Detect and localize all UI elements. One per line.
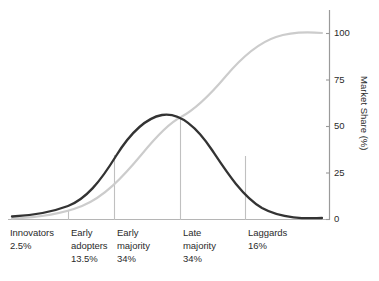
y-tick-label-25: 25	[334, 168, 345, 178]
adoption-lifecycle-chart: 100 75 50 25 0 Market Share (%) Innovato…	[0, 0, 379, 281]
y-axis-title: Market Share (%)	[359, 76, 370, 150]
y-tick-label-0: 0	[334, 214, 339, 224]
adoption-bell-curve	[12, 115, 322, 219]
segment-label-laggards: Laggards 16%	[248, 226, 310, 252]
y-tick-label-50: 50	[334, 121, 345, 131]
segment-label-early-adopters: Early adopters 13.5%	[71, 226, 115, 265]
y-tick-label-75: 75	[334, 75, 345, 85]
segment-dividers	[69, 117, 246, 220]
segment-label-late-majority: Late majority 34%	[183, 226, 243, 265]
segment-label-innovators: Innovators 2.5%	[10, 226, 68, 252]
cumulative-s-curve	[12, 32, 322, 218]
y-tick-label-100: 100	[334, 28, 350, 38]
segment-label-early-majority: Early majority 34%	[117, 226, 179, 265]
